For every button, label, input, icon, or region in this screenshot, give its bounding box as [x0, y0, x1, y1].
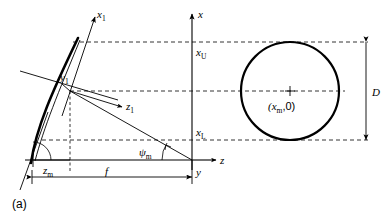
label-focal-length: f [105, 165, 110, 177]
label-z-m: zm [42, 164, 53, 179]
label-x-upper: xU [195, 46, 207, 61]
label-circle-center: (xm,0) [268, 100, 295, 115]
label-diameter: D [371, 86, 380, 98]
mirror-chord-line [35, 40, 80, 161]
tilt-reference-line [20, 112, 48, 190]
label-z1: z1 [125, 100, 134, 115]
optical-geometry-diagram: x1 y1 z1 x z y xU xL zm ψm [0, 0, 390, 222]
principal-ray [70, 91, 192, 160]
label-x-axis: x [197, 8, 203, 20]
figure-container: x1 y1 z1 x z y xU xL zm ψm [0, 0, 390, 222]
x1-axis-arrow [62, 17, 95, 116]
label-x-lower: xL [195, 126, 206, 141]
mirror-arc [31, 38, 78, 163]
panel-tag: (a) [12, 197, 27, 211]
label-z-axis: z [219, 154, 225, 166]
label-x1: x1 [96, 8, 106, 23]
label-psi-m: ψm [139, 146, 152, 161]
label-y-axis: y [195, 166, 201, 178]
